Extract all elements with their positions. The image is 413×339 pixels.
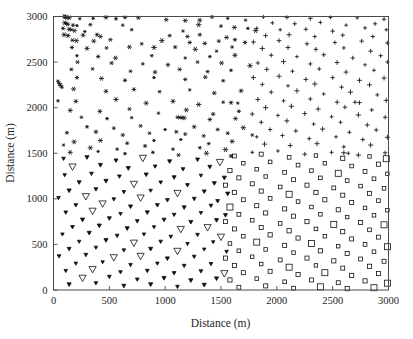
y-tick-label: 500 bbox=[32, 239, 48, 250]
x-tick-label: 1000 bbox=[155, 295, 176, 306]
y-axis-title: Distance (m) bbox=[4, 123, 17, 183]
figure-background bbox=[0, 0, 413, 339]
x-tick-label: 2500 bbox=[322, 295, 343, 306]
y-tick-label: 2500 bbox=[27, 57, 48, 68]
y-tick-label: 1500 bbox=[27, 148, 48, 159]
y-tick-label: 3000 bbox=[27, 11, 48, 22]
x-tick-label: 0 bbox=[51, 295, 56, 306]
y-tick-label: 1000 bbox=[27, 193, 48, 204]
x-tick-label: 500 bbox=[101, 295, 117, 306]
x-tick-label: 3000 bbox=[378, 295, 399, 306]
y-tick-label: 0 bbox=[42, 285, 47, 296]
scatter-plot-figure: 050010001500200025003000 050010001500200… bbox=[0, 0, 413, 339]
scatter-plot-canvas: 050010001500200025003000 050010001500200… bbox=[0, 0, 413, 339]
x-tick-label: 2000 bbox=[266, 295, 287, 306]
y-tick-label: 2000 bbox=[27, 102, 48, 113]
x-axis-title: Distance (m) bbox=[191, 317, 251, 330]
x-tick-label: 1500 bbox=[211, 295, 232, 306]
